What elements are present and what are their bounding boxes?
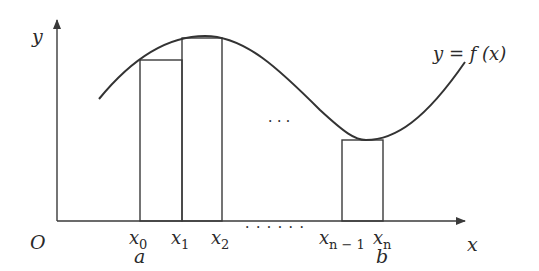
partition-label-xn-1: x n − 1 <box>319 227 365 252</box>
partition-label-x2: x 2 <box>211 227 229 252</box>
riemann-sum-diagram: y x O y = f (x) · · · · · · · · · x 0 x … <box>0 0 539 271</box>
axis-ellipsis: · · · · · · <box>245 219 305 235</box>
curve-label: y = f (x) <box>432 43 506 64</box>
x-axis-label: x <box>467 233 478 255</box>
svg-text:n − 1: n − 1 <box>329 237 365 252</box>
y-axis-label: y <box>31 25 43 47</box>
rectangle-x0-x1 <box>140 60 182 221</box>
middle-ellipsis: · · · <box>268 113 290 129</box>
svg-text:x: x <box>171 227 181 248</box>
partition-label-x1: x 1 <box>171 227 189 252</box>
rectangle-x1-x2 <box>182 38 222 221</box>
svg-text:2: 2 <box>221 237 229 252</box>
endpoint-label-b: b <box>376 245 388 267</box>
rectangle-xn1-xn <box>342 140 383 221</box>
endpoint-label-a: a <box>134 245 145 267</box>
svg-text:x: x <box>211 227 221 248</box>
origin-label: O <box>30 231 46 253</box>
svg-text:1: 1 <box>181 237 189 252</box>
svg-text:x: x <box>319 227 329 248</box>
